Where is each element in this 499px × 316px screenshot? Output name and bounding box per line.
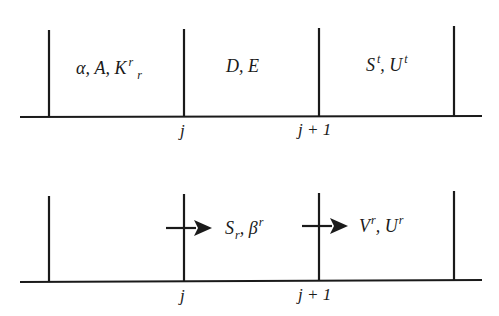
tick-label-j: j — [178, 121, 185, 140]
tick-label-j-plus-1: j + 1 — [296, 120, 331, 139]
top-panel: α, A, Krr D, E St, Ut j j + 1 — [20, 26, 482, 140]
staggered-grid-diagram: α, A, Krr D, E St, Ut j j + 1 Sr, βr Vr,… — [0, 0, 499, 316]
cell-label-d-e: D, E — [225, 56, 259, 76]
arrow-head-icon — [330, 218, 348, 234]
bottom-panel: Sr, βr Vr, Ur j j + 1 — [20, 191, 482, 305]
flux-arrow-j — [166, 220, 212, 236]
flux-label-s-beta: Sr, βr — [225, 215, 264, 242]
cell-label-alpha-a-k: α, A, Krr — [76, 55, 142, 82]
flux-label-v-u: Vr, Ur — [359, 213, 404, 236]
tick-label-j-plus-1: j + 1 — [296, 285, 331, 304]
cell-label-s-u: St, Ut — [366, 52, 408, 75]
flux-arrow-j-plus-1 — [302, 218, 348, 234]
arrow-head-icon — [194, 220, 212, 236]
bottom-axis-line — [20, 280, 482, 282]
top-axis-line — [20, 116, 482, 117]
tick-label-j: j — [178, 286, 185, 305]
